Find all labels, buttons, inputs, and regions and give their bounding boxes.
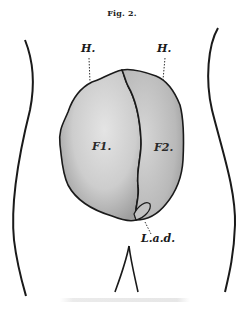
label-h-right: H.: [157, 42, 171, 55]
body-contour-right: [208, 28, 235, 292]
anatomical-figure: Fig. 2. H.: [0, 0, 244, 309]
label-f1: F1.: [92, 140, 111, 153]
figure-drawing: [0, 0, 244, 309]
vulva-outline-right: [129, 246, 138, 292]
label-f2: F2.: [154, 141, 173, 154]
label-lad: L.a.d.: [141, 232, 175, 245]
body-contour-left: [13, 40, 33, 296]
leader-h-left: [89, 58, 90, 82]
label-h-left: H.: [81, 42, 95, 55]
caption-illegible: [60, 298, 190, 302]
leader-h-right: [163, 58, 165, 80]
vulva-outline-left: [115, 246, 129, 292]
